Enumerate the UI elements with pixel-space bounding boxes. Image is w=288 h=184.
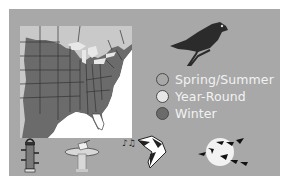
svg-text:♪♫: ♪♫ [122,138,136,148]
bird-silhouette-icon [168,18,238,66]
legend-item-winter: Winter [156,105,274,122]
birdbath-icon [62,140,102,174]
singing-bird-icon: ♪♫ [122,132,168,168]
legend: Spring/Summer Year-Round Winter [156,71,274,122]
tube-feeder-icon [18,136,42,174]
legend-label: Winter [175,106,217,121]
legend-label: Year-Round [175,89,246,104]
legend-item-spring-summer: Spring/Summer [156,71,274,88]
legend-item-year-round: Year-Round [156,88,274,105]
swatch-year-round-icon [156,90,169,103]
swatch-spring-summer-icon [156,73,169,86]
migration-flock-icon [196,136,256,170]
range-map [20,20,132,138]
swatch-winter-icon [156,107,169,120]
legend-label: Spring/Summer [175,72,274,87]
range-map-graphic [20,20,132,138]
